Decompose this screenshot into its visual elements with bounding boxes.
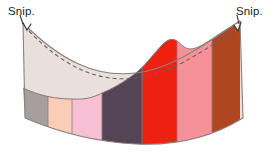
band-red bbox=[142, 15, 177, 155]
sewing-diagram-illustration bbox=[0, 0, 273, 159]
snip-label-left: Snip. bbox=[8, 6, 35, 18]
snip-label-right: Snip. bbox=[236, 6, 263, 18]
band-salmon bbox=[177, 15, 212, 155]
figure-canvas: Snip. Snip. bbox=[0, 0, 273, 159]
